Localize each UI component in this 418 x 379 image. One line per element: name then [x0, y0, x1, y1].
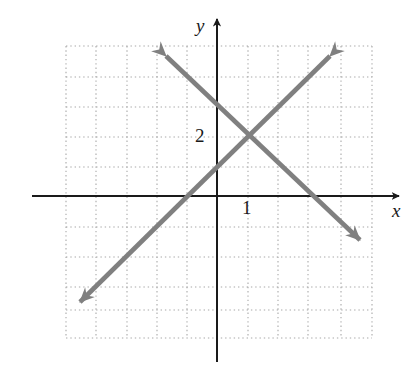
x-axis-label: x — [392, 201, 400, 220]
grid-lines — [66, 46, 372, 338]
graph-figure: y x 2 1 — [0, 0, 418, 379]
coordinate-plane-svg — [0, 0, 418, 379]
y-tick-label-2: 2 — [195, 126, 205, 145]
y-axis-label: y — [196, 16, 204, 35]
x-tick-label-1: 1 — [242, 198, 252, 217]
line-descending — [166, 56, 360, 240]
